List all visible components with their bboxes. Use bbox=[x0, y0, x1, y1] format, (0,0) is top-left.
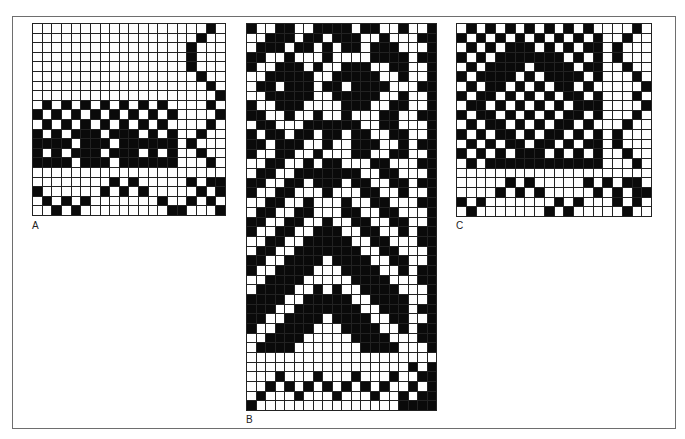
grid-cell bbox=[120, 72, 129, 81]
grid-cell bbox=[91, 120, 100, 129]
grid-cell bbox=[409, 150, 418, 159]
grid-cell bbox=[496, 53, 505, 62]
grid-cell bbox=[594, 198, 603, 207]
grid-cell bbox=[285, 314, 294, 323]
grid-cell bbox=[62, 139, 71, 148]
grid-cell bbox=[399, 285, 408, 294]
grid-cell bbox=[139, 43, 148, 52]
grid-cell bbox=[266, 363, 275, 372]
grid-cell bbox=[333, 401, 342, 410]
grid-cell bbox=[584, 111, 593, 120]
grid-cell bbox=[633, 140, 642, 149]
grid-cell bbox=[486, 53, 495, 62]
grid-cell bbox=[380, 237, 389, 246]
grid-cell bbox=[52, 101, 61, 110]
grid-cell bbox=[120, 82, 129, 91]
grid-cell bbox=[428, 24, 437, 33]
grid-cell bbox=[333, 237, 342, 246]
grid-cell bbox=[101, 43, 110, 52]
grid-cell bbox=[361, 285, 370, 294]
grid-cell bbox=[266, 179, 275, 188]
grid-cell bbox=[545, 178, 554, 187]
grid-cell bbox=[642, 43, 651, 52]
grid-cell bbox=[613, 53, 622, 62]
grid-cell bbox=[187, 53, 196, 62]
grid-cell bbox=[314, 334, 323, 343]
grid-cell bbox=[633, 149, 642, 158]
grid-cell bbox=[149, 110, 158, 119]
grid-cell bbox=[380, 314, 389, 323]
grid-cell bbox=[33, 139, 42, 148]
grid-cell bbox=[623, 53, 632, 62]
grid-cell bbox=[342, 140, 351, 149]
grid-cell bbox=[276, 334, 285, 343]
grid-cell bbox=[333, 295, 342, 304]
grid-cell bbox=[613, 140, 622, 149]
grid-cell bbox=[52, 168, 61, 177]
grid-cell bbox=[247, 305, 256, 314]
grid-cell bbox=[516, 43, 525, 52]
grid-cell bbox=[574, 188, 583, 197]
grid-cell bbox=[399, 372, 408, 381]
grid-cell bbox=[409, 363, 418, 372]
grid-cell bbox=[266, 382, 275, 391]
grid-cell bbox=[623, 178, 632, 187]
grid-cell bbox=[247, 285, 256, 294]
grid-cell bbox=[323, 188, 332, 197]
grid-cell bbox=[295, 401, 304, 410]
grid-cell bbox=[525, 198, 534, 207]
grid-cell bbox=[467, 198, 476, 207]
grid-cell bbox=[216, 130, 225, 139]
grid-cell bbox=[352, 237, 361, 246]
grid-cell bbox=[266, 343, 275, 352]
grid-cell bbox=[120, 43, 129, 52]
grid-cell bbox=[207, 187, 216, 196]
grid-cell bbox=[257, 227, 266, 236]
grid-cell bbox=[120, 197, 129, 206]
grid-cell bbox=[428, 92, 437, 101]
grid-cell bbox=[477, 101, 486, 110]
grid-cell bbox=[178, 62, 187, 71]
grid-cell bbox=[207, 101, 216, 110]
grid-cell bbox=[266, 130, 275, 139]
grid-cell bbox=[486, 34, 495, 43]
grid-cell bbox=[52, 187, 61, 196]
grid-cell bbox=[110, 158, 119, 167]
grid-cell bbox=[197, 91, 206, 100]
grid-cell bbox=[399, 237, 408, 246]
grid-cell bbox=[409, 159, 418, 168]
grid-cell bbox=[168, 187, 177, 196]
grid-cell bbox=[564, 188, 573, 197]
grid-cell bbox=[285, 169, 294, 178]
grid-cell bbox=[285, 208, 294, 217]
grid-cell bbox=[304, 353, 313, 362]
grid-cell bbox=[342, 34, 351, 43]
grid-cell bbox=[62, 34, 71, 43]
grid-cell bbox=[295, 276, 304, 285]
grid-cell bbox=[314, 121, 323, 130]
grid-cell bbox=[216, 206, 225, 215]
grid-cell bbox=[342, 198, 351, 207]
grid-cell bbox=[457, 188, 466, 197]
grid-cell bbox=[178, 110, 187, 119]
grid-cell bbox=[418, 314, 427, 323]
grid-cell bbox=[323, 401, 332, 410]
grid-cell bbox=[352, 227, 361, 236]
grid-cell bbox=[525, 120, 534, 129]
grid-cell bbox=[613, 101, 622, 110]
grid-cell bbox=[352, 121, 361, 130]
grid-cell bbox=[129, 206, 138, 215]
grid-cell bbox=[574, 82, 583, 91]
grid-cell bbox=[457, 72, 466, 81]
grid-cell bbox=[72, 130, 81, 139]
grid-cell bbox=[371, 276, 380, 285]
grid-cell bbox=[110, 72, 119, 81]
grid-cell bbox=[187, 178, 196, 187]
grid-cell bbox=[584, 178, 593, 187]
grid-cell bbox=[623, 207, 632, 216]
grid-cell bbox=[33, 187, 42, 196]
grid-cell bbox=[139, 149, 148, 158]
grid-cell bbox=[594, 101, 603, 110]
grid-cell bbox=[139, 91, 148, 100]
grid-cell bbox=[457, 159, 466, 168]
